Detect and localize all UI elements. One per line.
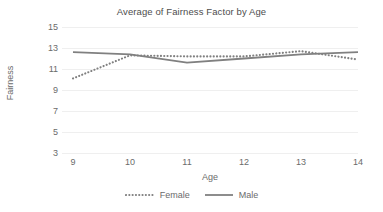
x-tick-label: 11 [167, 158, 207, 167]
gridline [62, 153, 358, 154]
x-tick-label: 14 [338, 158, 378, 167]
plot-area [62, 27, 358, 153]
chart-legend: FemaleMale [0, 190, 383, 200]
legend-entry-female[interactable]: Female [125, 190, 190, 200]
x-tick-label: 10 [110, 158, 150, 167]
series-line-female [73, 51, 358, 78]
legend-swatch-dotted-icon [125, 190, 155, 200]
x-tick-label: 12 [224, 158, 264, 167]
x-axis-title: Age [62, 172, 358, 182]
legend-label: Male [239, 190, 259, 200]
chart-container: Average of Fairness Factor by Age 151311… [0, 0, 383, 212]
x-tick-label: 9 [53, 158, 93, 167]
legend-swatch-solid-icon [204, 190, 234, 200]
series-lines [62, 27, 358, 153]
x-tick-label: 13 [281, 158, 321, 167]
y-axis-title: Fairness [5, 51, 15, 115]
legend-label: Female [160, 190, 190, 200]
legend-entry-male[interactable]: Male [204, 190, 259, 200]
